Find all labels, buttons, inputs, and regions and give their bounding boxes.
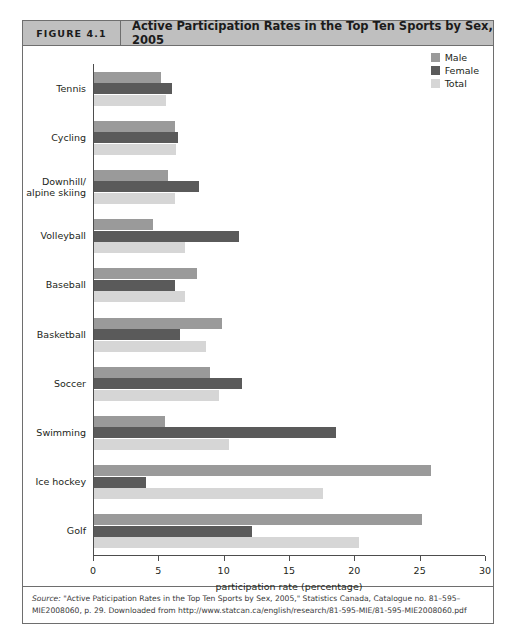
bar-group: Tennis: [94, 64, 485, 113]
x-axis-tick-label: 20: [348, 565, 360, 576]
bar-total: [94, 439, 229, 450]
bar-female: [94, 378, 242, 389]
category-label: Downhill/ alpine skiing: [26, 175, 86, 198]
x-axis-tick: [420, 556, 421, 561]
figure-number: FIGURE 4.1: [23, 21, 121, 45]
bar-male: [94, 514, 422, 525]
bar-total: [94, 144, 176, 155]
bar-male: [94, 170, 168, 181]
plot-area: participation rate (percentage) 05101520…: [93, 64, 485, 556]
bar-total: [94, 488, 323, 499]
bar-male: [94, 465, 431, 476]
category-label: Volleyball: [41, 230, 86, 242]
bar-female: [94, 181, 199, 192]
bar-female: [94, 83, 172, 94]
bar-total: [94, 341, 206, 352]
bar-total: [94, 291, 185, 302]
bar-group: Golf: [94, 507, 485, 556]
source-lead: Source:: [32, 594, 61, 603]
bar-group: Swimming: [94, 408, 485, 457]
bar-group: Volleyball: [94, 212, 485, 261]
x-axis-tick-label: 25: [414, 565, 426, 576]
bar-female: [94, 526, 252, 537]
bar-group: Soccer: [94, 359, 485, 408]
bar-female: [94, 231, 239, 242]
x-axis-tick-label: 5: [155, 565, 161, 576]
bar-group: Cycling: [94, 113, 485, 162]
bar-female: [94, 132, 178, 143]
bar-female: [94, 280, 175, 291]
figure-container: FIGURE 4.1 Active Participation Rates in…: [22, 20, 494, 617]
chart-panel: MaleFemaleTotal participation rate (perc…: [22, 46, 494, 586]
bar-total: [94, 95, 166, 106]
bar-male: [94, 318, 222, 329]
bar-male: [94, 121, 175, 132]
bar-total: [94, 390, 219, 401]
figure-title: Active Participation Rates in the Top Te…: [121, 21, 493, 45]
bar-female: [94, 477, 146, 488]
category-label: Ice hockey: [35, 476, 86, 488]
x-axis-tick: [354, 556, 355, 561]
x-axis-tick: [485, 556, 486, 561]
x-axis-tick: [158, 556, 159, 561]
category-label: Golf: [67, 526, 86, 538]
legend-item-male: Male: [431, 52, 479, 63]
legend-label: Male: [445, 52, 468, 63]
category-label: Basketball: [37, 329, 86, 341]
x-axis-tick: [93, 556, 94, 561]
category-label: Baseball: [46, 280, 86, 292]
bar-group: Ice hockey: [94, 458, 485, 507]
bar-male: [94, 219, 153, 230]
bar-female: [94, 427, 336, 438]
bar-male: [94, 268, 197, 279]
figure-header: FIGURE 4.1 Active Participation Rates in…: [22, 20, 494, 46]
bar-group: Baseball: [94, 261, 485, 310]
category-label: Soccer: [54, 378, 86, 390]
category-label: Tennis: [56, 83, 86, 95]
category-label: Cycling: [51, 132, 86, 144]
x-axis-title: participation rate (percentage): [93, 581, 485, 592]
x-axis-tick: [224, 556, 225, 561]
x-axis-tick-label: 30: [479, 565, 491, 576]
legend-swatch-icon: [431, 53, 440, 62]
bar-total: [94, 242, 185, 253]
source-text: "Active Paticipation Rates in the Top Te…: [32, 594, 467, 615]
bar-male: [94, 416, 165, 427]
bar-total: [94, 537, 359, 548]
bar-male: [94, 72, 161, 83]
x-axis-tick-label: 0: [90, 565, 96, 576]
category-label: Swimming: [36, 427, 86, 439]
x-axis-tick-label: 15: [283, 565, 295, 576]
bar-total: [94, 193, 175, 204]
x-axis-tick: [289, 556, 290, 561]
bar-female: [94, 329, 180, 340]
bar-group: Basketball: [94, 310, 485, 359]
bar-group: Downhill/ alpine skiing: [94, 162, 485, 211]
bar-male: [94, 367, 210, 378]
x-axis-tick-label: 10: [218, 565, 230, 576]
